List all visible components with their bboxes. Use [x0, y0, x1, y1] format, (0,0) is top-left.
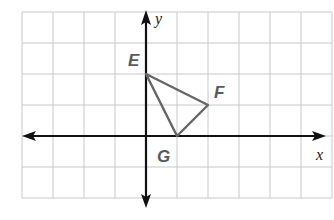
- axes: x y: [22, 10, 326, 208]
- coordinate-plane: x y E F G: [0, 0, 334, 220]
- point-label-g: G: [157, 147, 170, 166]
- y-axis-label: y: [153, 10, 163, 28]
- grid: [22, 12, 332, 198]
- point-label-e: E: [128, 51, 140, 70]
- x-axis-label: x: [315, 146, 323, 163]
- point-label-f: F: [214, 83, 225, 102]
